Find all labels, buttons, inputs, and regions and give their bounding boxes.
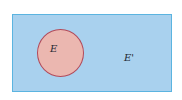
event-e-circle (37, 29, 84, 77)
sample-space-rectangle (12, 14, 172, 92)
complement-label: E' (124, 52, 134, 63)
event-e-label: E (50, 43, 57, 54)
